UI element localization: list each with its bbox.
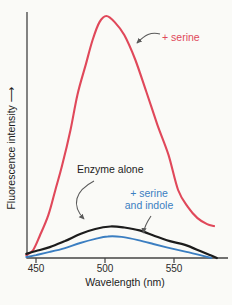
plot-svg xyxy=(0,0,232,305)
tick-label-450: 450 xyxy=(21,263,51,274)
curve-serine xyxy=(26,16,214,255)
tick-label-500: 500 xyxy=(90,263,120,274)
fluorescence-spectra-figure: Fluorescence intensity ⟶ 450 500 550 Wav… xyxy=(0,0,232,305)
serine-indole-line1: + serine xyxy=(118,187,180,199)
serine-annotation: + serine xyxy=(162,31,200,43)
curve-serine-indole xyxy=(26,236,211,258)
serine-indole-arrow-icon xyxy=(144,216,152,233)
y-axis-label: Fluorescence intensity ⟶ xyxy=(5,49,20,249)
enzyme-alone-arrow-icon xyxy=(76,181,94,219)
curves-group xyxy=(26,16,217,258)
serine-indole-line2: and indole xyxy=(118,199,180,211)
axes-lines xyxy=(27,12,228,258)
serine-indole-annotation: + serine and indole xyxy=(118,187,180,211)
right-arrow-icon: ⟶ xyxy=(5,87,17,102)
serine-arrow-icon xyxy=(137,33,160,43)
x-axis-label: Wavelength (nm) xyxy=(27,276,223,288)
y-axis-label-text: Fluorescence intensity xyxy=(5,105,17,209)
enzyme-alone-annotation: Enzyme alone xyxy=(77,163,144,175)
tick-label-550: 550 xyxy=(159,263,189,274)
